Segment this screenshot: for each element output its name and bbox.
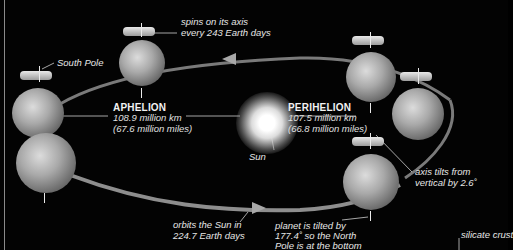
axis-line: [370, 133, 371, 149]
sun-label: Sun: [249, 151, 266, 162]
aphelion-miles: (67.6 million miles): [113, 123, 192, 134]
planet-venus: [16, 133, 76, 193]
axis-line: [418, 68, 419, 84]
planet-venus: [119, 40, 165, 86]
planet-venus: [392, 88, 444, 140]
axis-line: [39, 66, 40, 82]
aphelion-km: 108.9 million km: [113, 112, 182, 123]
axis-line: [141, 23, 142, 37]
perihelion-km: 107.5 million km: [288, 112, 357, 123]
orbit-period-label-line2: 224.7 Earth days: [173, 230, 245, 241]
orbit-period-label-line1: orbits the Sun in: [173, 219, 242, 230]
south-pole-label: South Pole: [57, 57, 103, 68]
orbit-direction-arrow-icon: [252, 202, 266, 214]
perihelion-miles: (66.8 million miles): [288, 123, 367, 134]
planet-venus: [12, 88, 64, 138]
axis-line: [141, 88, 142, 98]
rotation-ring-icon: [123, 27, 155, 36]
planet-venus: [343, 154, 399, 210]
spin-label-line1: spins on its axis: [181, 16, 248, 27]
axis-line: [370, 211, 371, 221]
silicate-crust-label: silicate crust: [461, 229, 513, 240]
rotation-ring-icon: [352, 36, 384, 45]
axis-line: [370, 32, 371, 48]
planet-venus: [346, 52, 396, 102]
rotation-ring-icon: [20, 71, 52, 80]
rotation-ring-icon: [352, 137, 384, 146]
axis-line: [370, 103, 371, 113]
axis-tilt-label-line1: axis tilts from: [415, 166, 470, 177]
planet-tilt-label-line3: Pole is at the bottom: [275, 240, 362, 250]
axis-line: [44, 193, 45, 203]
rotation-ring-icon: [400, 72, 432, 81]
axis-tilt-label-line2: vertical by 2.6˚: [415, 177, 477, 188]
spin-label-line2: every 243 Earth days: [181, 27, 271, 38]
